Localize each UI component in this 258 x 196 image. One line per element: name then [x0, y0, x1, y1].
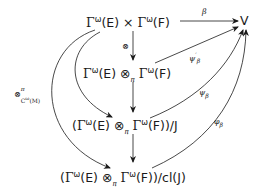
node-product: Γω(E) × Γω(F): [86, 13, 170, 30]
node-quotient-cl-j: (Γω(E) ⊗π Γω(F))/cl(J): [60, 168, 186, 191]
label-phi-beta: φβ: [214, 117, 223, 130]
label-psi-prime-beta: ψ′β: [189, 50, 200, 66]
label-otimes: ⊗: [122, 42, 129, 52]
node-tensor: Γω(E) ⊗π Γω(F): [83, 64, 171, 87]
node-quotient-j: (Γω(E) ⊗π Γω(F))/J: [72, 116, 178, 139]
label-beta: β: [202, 7, 207, 17]
arrow-otimes-pi: [52, 30, 110, 168]
label-otimes-pi-c-omega-m: ⊗πCω(M): [14, 90, 40, 103]
label-psi-beta: ψβ: [199, 88, 209, 101]
node-v: V: [240, 14, 249, 28]
